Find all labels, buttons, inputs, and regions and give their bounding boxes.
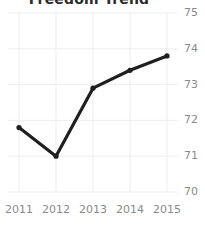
x-axis-tick-label: 2015 — [147, 203, 187, 216]
y-axis-tick-label: 74 — [184, 42, 198, 55]
y-axis-tick-label: 72 — [184, 113, 198, 126]
data-point-marker — [53, 154, 58, 159]
chart-container: Freedom Trend 707172737475 2011201220132… — [0, 0, 205, 226]
y-axis-tick-label: 75 — [184, 6, 198, 19]
data-point-marker — [90, 86, 95, 91]
y-axis-tick-label: 71 — [184, 149, 198, 162]
vertical-gridlines — [19, 13, 167, 192]
chart-svg — [0, 0, 205, 226]
data-point-marker — [16, 125, 21, 130]
x-axis-tick-label: 2012 — [36, 203, 76, 216]
y-axis-tick-label: 73 — [184, 78, 198, 91]
plot-area — [0, 0, 205, 226]
data-point-marker — [164, 53, 169, 58]
data-point-marker — [127, 68, 132, 73]
x-axis-tick-label: 2014 — [110, 203, 150, 216]
x-axis-tick-label: 2011 — [0, 203, 39, 216]
y-axis-tick-label: 70 — [184, 185, 198, 198]
x-axis-tick-label: 2013 — [73, 203, 113, 216]
